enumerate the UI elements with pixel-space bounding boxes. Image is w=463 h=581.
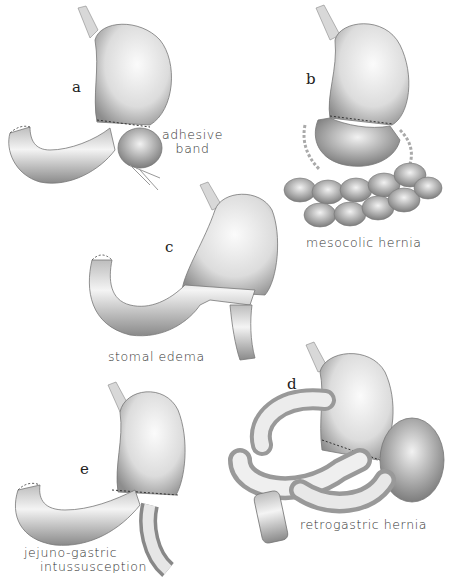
panel-a-drawing	[9, 6, 172, 190]
panel-a-caption-line2: band	[162, 142, 223, 156]
panel-a-label: a	[72, 78, 81, 96]
panel-e-label: e	[80, 460, 89, 478]
panel-c-caption: stomal edema	[108, 350, 205, 364]
panel-e-drawing	[15, 382, 185, 570]
panel-d-label: d	[287, 375, 297, 393]
panel-c-label: c	[165, 238, 173, 256]
panel-a-caption: adhesive band	[162, 128, 223, 156]
illustration-drawings	[0, 0, 463, 581]
panel-e-caption-line2: intussusception	[24, 560, 147, 574]
panel-d-drawing	[240, 342, 444, 544]
panel-d-caption: retrogastric hernia	[300, 518, 427, 532]
panel-c-drawing	[89, 182, 277, 360]
panel-e-caption: jejuno-gastric intussusception	[24, 546, 147, 574]
medical-illustration-figure: a adhesive band b mesocolic hernia c sto…	[0, 0, 463, 581]
panel-b-drawing	[284, 5, 442, 227]
panel-b-caption: mesocolic hernia	[306, 236, 422, 250]
panel-b-label: b	[306, 70, 316, 88]
panel-e-caption-line1: jejuno-gastric	[24, 546, 147, 560]
panel-a-caption-line1: adhesive	[162, 128, 223, 142]
